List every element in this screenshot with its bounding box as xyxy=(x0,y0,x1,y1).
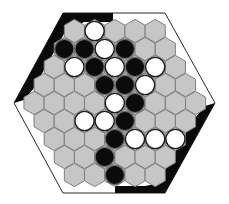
black-stone-r1-c1 xyxy=(75,39,94,58)
white-stone-r2-c3 xyxy=(105,57,124,76)
white-stone-r5-c3 xyxy=(95,111,114,130)
white-stone-r2-c5 xyxy=(146,57,165,76)
black-stone-r2-c2 xyxy=(85,57,104,76)
black-stone-r1-c3 xyxy=(115,39,134,58)
black-stone-r3-c4 xyxy=(115,75,134,94)
white-stone-r5-c2 xyxy=(75,111,94,130)
black-stone-r4-c5 xyxy=(125,93,144,112)
black-stone-r7-c2 xyxy=(95,147,114,166)
black-stone-r1-c0 xyxy=(55,39,74,58)
white-stone-r4-c4 xyxy=(105,93,124,112)
black-stone-r6-c3 xyxy=(105,129,124,148)
white-stone-r6-c5 xyxy=(146,129,165,148)
black-stone-r2-c4 xyxy=(125,57,144,76)
white-stone-r0-c1 xyxy=(85,21,104,40)
white-stone-r3-c5 xyxy=(136,75,155,94)
black-stone-r5-c4 xyxy=(115,111,134,130)
white-stone-r6-c4 xyxy=(125,129,144,148)
board-canvas xyxy=(0,0,229,204)
white-stone-r2-c1 xyxy=(65,57,84,76)
white-stone-r6-c6 xyxy=(166,129,185,148)
hex-game-board xyxy=(0,0,229,204)
black-stone-r3-c3 xyxy=(95,75,114,94)
black-stone-r8-c2 xyxy=(105,165,124,184)
white-stone-r1-c2 xyxy=(95,39,114,58)
